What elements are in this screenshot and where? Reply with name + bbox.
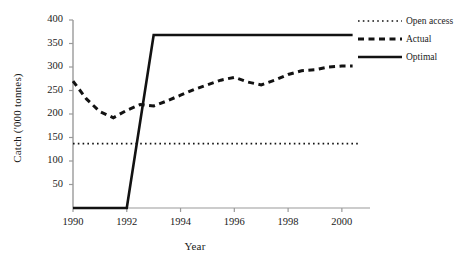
x-axis-tick-label: 1990	[53, 216, 93, 227]
legend-swatch-dashed	[356, 33, 404, 45]
chart-figure: Catch ('000 tonnes) Year 501001502002503…	[0, 0, 454, 270]
legend-item: Actual	[356, 30, 454, 48]
x-axis-tick-label: 1992	[107, 216, 147, 227]
chart-legend: Open accessActualOptimal	[356, 12, 454, 66]
legend-swatch-dotted	[356, 15, 404, 27]
y-axis-tick-label: 300	[23, 60, 63, 71]
legend-swatch-solid	[356, 51, 404, 63]
legend-label: Optimal	[404, 52, 437, 62]
y-axis-tick-label: 200	[23, 107, 63, 118]
y-axis-tick-label: 150	[23, 131, 63, 142]
data-series	[73, 35, 358, 208]
x-axis-title: Year	[0, 240, 390, 252]
series-line-optimal	[73, 35, 353, 208]
y-axis-tick-label: 250	[23, 84, 63, 95]
legend-label: Actual	[404, 34, 431, 44]
x-axis-tick-label: 1994	[161, 216, 201, 227]
x-axis-tick-label: 2000	[322, 216, 362, 227]
x-axis-tick-label: 1998	[268, 216, 308, 227]
y-axis-tick-label: 400	[23, 13, 63, 24]
legend-label: Open access	[404, 16, 453, 26]
y-axis-title: Catch ('000 tonnes)	[11, 43, 23, 193]
y-axis-tick-label: 100	[23, 154, 63, 165]
series-line-actual	[73, 66, 353, 118]
legend-item: Open access	[356, 12, 454, 30]
x-axis-tick-label: 1996	[214, 216, 254, 227]
y-axis-tick-label: 50	[23, 178, 63, 189]
legend-item: Optimal	[356, 48, 454, 66]
y-axis-tick-label: 350	[23, 37, 63, 48]
